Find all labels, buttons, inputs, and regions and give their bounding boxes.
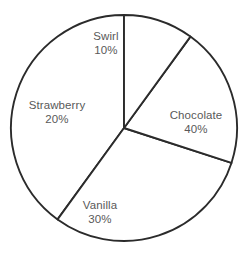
pie-chart: Chocolate 40% Vanilla 30% Strawberry 20%… [0,0,247,254]
pie-label-strawberry-name: Strawberry [29,99,86,113]
pie-label-strawberry-value: 20% [29,112,86,126]
pie-label-strawberry: Strawberry 20% [29,99,86,126]
pie-label-swirl: Swirl 10% [93,30,118,57]
pie-label-chocolate-value: 40% [170,122,223,136]
pie-label-chocolate: Chocolate 40% [170,109,223,136]
pie-label-vanilla-name: Vanilla [83,199,117,213]
pie-label-vanilla: Vanilla 30% [83,199,117,226]
pie-label-swirl-value: 10% [93,43,118,57]
pie-label-vanilla-value: 30% [83,212,117,226]
pie-label-chocolate-name: Chocolate [170,109,223,123]
pie-label-swirl-name: Swirl [93,30,118,44]
